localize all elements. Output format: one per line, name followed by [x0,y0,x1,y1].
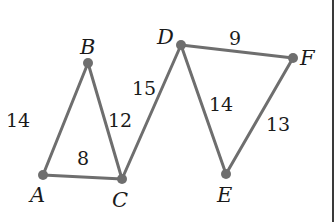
edge-weights-group: 141281591413 [6,27,290,169]
vertex-label-c: C [112,188,128,212]
edge-weight-df: 9 [229,27,241,49]
vertex-label-a: A [28,183,45,207]
vertex-label-e: E [216,183,232,207]
vertex-e [221,169,231,179]
vertex-a [38,170,48,180]
edge-weight-ac: 8 [77,147,89,169]
vertex-b [83,58,93,68]
edge-weight-de: 14 [209,93,233,115]
graph-diagram: 141281591413 ABCDEF [0,0,336,222]
edge-ac [43,175,122,179]
vertex-label-d: D [156,25,174,49]
graph-canvas: 141281591413 ABCDEF [0,0,336,222]
vertex-f [288,53,298,63]
edge-weight-ef: 13 [266,113,290,135]
edge-weight-ab: 14 [6,109,30,131]
edge-weight-bc: 12 [108,109,132,131]
vertex-label-b: B [79,35,95,59]
vertex-c [117,174,127,184]
edge-weight-cd: 15 [132,77,156,99]
vertex-d [176,40,186,50]
vertex-label-f: F [299,46,316,70]
